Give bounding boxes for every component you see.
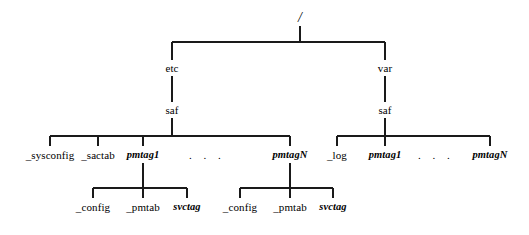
- node-pmtag1-config: _config: [76, 202, 110, 213]
- ellipsis-etc: . . .: [189, 150, 225, 161]
- node-var-pmtag1: pmtag1: [369, 150, 402, 161]
- node-etc-pmtag1: pmtag1: [127, 150, 160, 161]
- node-var-pmtagn: pmtagN: [472, 150, 507, 161]
- node-sactab: _sactab: [81, 150, 115, 161]
- node-var-saf: saf: [378, 105, 391, 116]
- node-root: /: [298, 11, 302, 25]
- ellipsis-var: . . .: [418, 150, 454, 161]
- node-etc-saf: saf: [165, 105, 178, 116]
- node-pmtagn-svctag: svctag: [319, 202, 346, 213]
- node-pmtagn-config: _config: [223, 202, 257, 213]
- node-var: var: [378, 63, 392, 74]
- node-sysconfig: _sysconfig: [26, 150, 75, 161]
- node-pmtag1-svctag: svctag: [173, 202, 200, 213]
- node-pmtag1-pmtab: _pmtab: [126, 202, 160, 213]
- node-etc: etc: [165, 63, 178, 74]
- node-pmtagn-pmtab: _pmtab: [273, 202, 307, 213]
- filesystem-tree-diagram: / etc var saf saf _sysconfig _sactab pmt…: [0, 0, 529, 235]
- node-etc-pmtagn: pmtagN: [272, 150, 307, 161]
- node-log: _log: [327, 150, 347, 161]
